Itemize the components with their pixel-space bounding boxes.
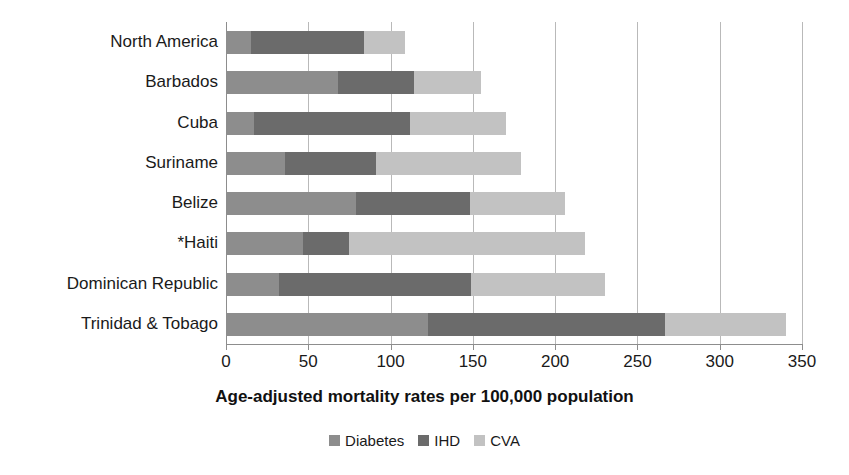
gridline-350: [802, 22, 803, 344]
x-axis-ticks: 050100150200250300350: [226, 344, 802, 374]
bar-row: [226, 143, 802, 183]
tick-mark-350: [802, 344, 803, 350]
legend-label: Diabetes: [345, 432, 404, 449]
bar-segment-ihd: [428, 313, 665, 336]
bar-segment-diabetes: [226, 313, 428, 336]
chart-legend: DiabetesIHDCVA: [0, 432, 849, 449]
category-label: North America: [0, 22, 218, 62]
tick-mark-0: [226, 344, 227, 350]
bar-row: [226, 22, 802, 62]
bar-row: [226, 264, 802, 304]
legend-swatch-icon: [474, 435, 485, 446]
bar-segment-diabetes: [226, 71, 338, 94]
bar-segment-ihd: [254, 112, 410, 135]
x-tick-label: 250: [623, 352, 651, 372]
bar-row: [226, 304, 802, 344]
stacked-bar: [226, 273, 605, 296]
category-label: Trinidad & Tobago: [0, 304, 218, 344]
bar-segment-diabetes: [226, 232, 303, 255]
bar-row: [226, 103, 802, 143]
bar-segment-diabetes: [226, 273, 279, 296]
bar-segment-cva: [414, 71, 481, 94]
bar-segment-ihd: [356, 192, 470, 215]
bar-segment-ihd: [285, 152, 376, 175]
legend-label: CVA: [490, 432, 520, 449]
stacked-bar: [226, 232, 585, 255]
legend-item-diabetes: Diabetes: [329, 432, 404, 449]
legend-label: IHD: [434, 432, 460, 449]
plot-area: [226, 22, 802, 344]
bar-segment-ihd: [338, 71, 414, 94]
bar-rows: [226, 22, 802, 344]
x-tick-label: 0: [221, 352, 230, 372]
category-label: Cuba: [0, 103, 218, 143]
bar-segment-ihd: [303, 232, 349, 255]
stacked-bar: [226, 112, 506, 135]
tick-mark-150: [473, 344, 474, 350]
bar-segment-diabetes: [226, 112, 254, 135]
bar-segment-ihd: [251, 31, 365, 54]
category-label: Barbados: [0, 62, 218, 102]
x-tick-label: 300: [706, 352, 734, 372]
bar-segment-diabetes: [226, 152, 285, 175]
stacked-bar: [226, 71, 481, 94]
stacked-bar: [226, 152, 521, 175]
tick-mark-200: [555, 344, 556, 350]
category-label: Suriname: [0, 143, 218, 183]
x-tick-label: 100: [376, 352, 404, 372]
category-axis-labels: North AmericaBarbadosCubaSurinameBelize*…: [0, 22, 218, 344]
bar-segment-diabetes: [226, 192, 356, 215]
x-axis-title: Age-adjusted mortality rates per 100,000…: [0, 387, 849, 407]
category-label: Belize: [0, 183, 218, 223]
legend-item-ihd: IHD: [418, 432, 460, 449]
tick-mark-100: [391, 344, 392, 350]
bar-segment-diabetes: [226, 31, 251, 54]
stacked-bar: [226, 192, 565, 215]
x-tick-label: 200: [541, 352, 569, 372]
legend-item-cva: CVA: [474, 432, 520, 449]
bar-row: [226, 223, 802, 263]
bar-segment-cva: [665, 313, 785, 336]
x-tick-label: 50: [299, 352, 318, 372]
stacked-bar: [226, 313, 786, 336]
bar-row: [226, 62, 802, 102]
legend-swatch-icon: [418, 435, 429, 446]
x-tick-label: 150: [459, 352, 487, 372]
bar-segment-cva: [364, 31, 405, 54]
tick-mark-250: [637, 344, 638, 350]
legend-swatch-icon: [329, 435, 340, 446]
bar-segment-ihd: [279, 273, 472, 296]
stacked-bar-chart: North AmericaBarbadosCubaSurinameBelize*…: [0, 0, 849, 475]
bar-segment-cva: [471, 273, 604, 296]
tick-mark-300: [720, 344, 721, 350]
bar-segment-cva: [470, 192, 565, 215]
bar-segment-cva: [410, 112, 505, 135]
category-label: Dominican Republic: [0, 264, 218, 304]
bar-segment-cva: [376, 152, 521, 175]
stacked-bar: [226, 31, 405, 54]
x-tick-label: 350: [788, 352, 816, 372]
bar-segment-cva: [349, 232, 584, 255]
tick-mark-50: [308, 344, 309, 350]
category-label: *Haiti: [0, 223, 218, 263]
bar-row: [226, 183, 802, 223]
